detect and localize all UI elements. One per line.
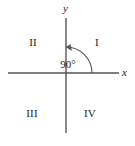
angle-label: 90° xyxy=(60,58,75,70)
quadrant-label-iii: III xyxy=(26,107,38,119)
coordinate-plane-figure: y x 90° I II III IV xyxy=(0,0,135,146)
quadrant-label-i: I xyxy=(95,36,99,48)
x-axis-label: x xyxy=(121,66,127,78)
quadrant-label-ii: II xyxy=(29,36,37,48)
quadrant-label-iv: IV xyxy=(84,107,96,119)
y-axis-label: y xyxy=(62,2,68,14)
angle-arc-arrowhead xyxy=(66,45,72,51)
coordinate-plane-svg: y x 90° I II III IV xyxy=(0,0,135,146)
